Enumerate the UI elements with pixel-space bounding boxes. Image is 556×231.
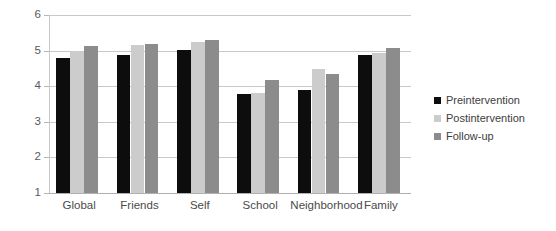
legend-item[interactable]: Follow-up [434,128,525,144]
bar-group [170,15,230,193]
x-axis-category-label: Friends [109,199,169,212]
bar[interactable] [251,93,265,193]
y-axis-tick-label: 3 [20,116,41,128]
y-axis-tick-label: 2 [20,151,41,163]
y-axis-tick-label: 4 [20,80,41,92]
legend-item-label: Preintervention [446,95,520,106]
bar[interactable] [312,69,326,193]
bar-group [290,15,350,193]
bar[interactable] [131,45,145,193]
legend-item-label: Follow-up [446,131,494,142]
bar[interactable] [326,74,340,193]
bar-group [230,15,290,193]
chart-legend: PreinterventionPostinterventionFollow-up [434,92,525,146]
x-axis-line [49,193,411,194]
bar-chart: 123456 GlobalFriendsSelfSchoolNeighborho… [0,0,556,231]
bar[interactable] [358,55,372,193]
y-axis-tick-label: 5 [20,45,41,57]
y-axis-tick-label: 1 [20,187,41,199]
bar[interactable] [177,50,191,193]
x-axis-category-label: Neighborhood [290,199,350,212]
bar[interactable] [265,80,279,193]
bar-group [109,15,169,193]
x-axis-category-label: School [230,199,290,212]
x-axis-category-label: Self [170,199,230,212]
legend-item[interactable]: Postintervention [434,110,525,126]
legend-item[interactable]: Preintervention [434,92,525,108]
plot-area [49,15,411,193]
legend-swatch-icon [434,133,441,140]
legend-swatch-icon [434,115,441,122]
bar[interactable] [205,40,219,193]
bar[interactable] [372,53,386,193]
legend-item-label: Postintervention [446,113,525,124]
y-axis-tick-label: 6 [20,9,41,21]
bar[interactable] [386,48,400,193]
bar[interactable] [117,55,131,193]
bar[interactable] [70,51,84,193]
bar[interactable] [56,58,70,193]
legend-swatch-icon [434,97,441,104]
bar[interactable] [145,44,159,193]
bar[interactable] [84,46,98,193]
x-axis-category-label: Global [49,199,109,212]
bar[interactable] [237,94,251,193]
bar-group [351,15,411,193]
bar-group [49,15,109,193]
x-axis-category-label: Family [351,199,411,212]
bar[interactable] [191,42,205,193]
bar[interactable] [298,90,312,193]
